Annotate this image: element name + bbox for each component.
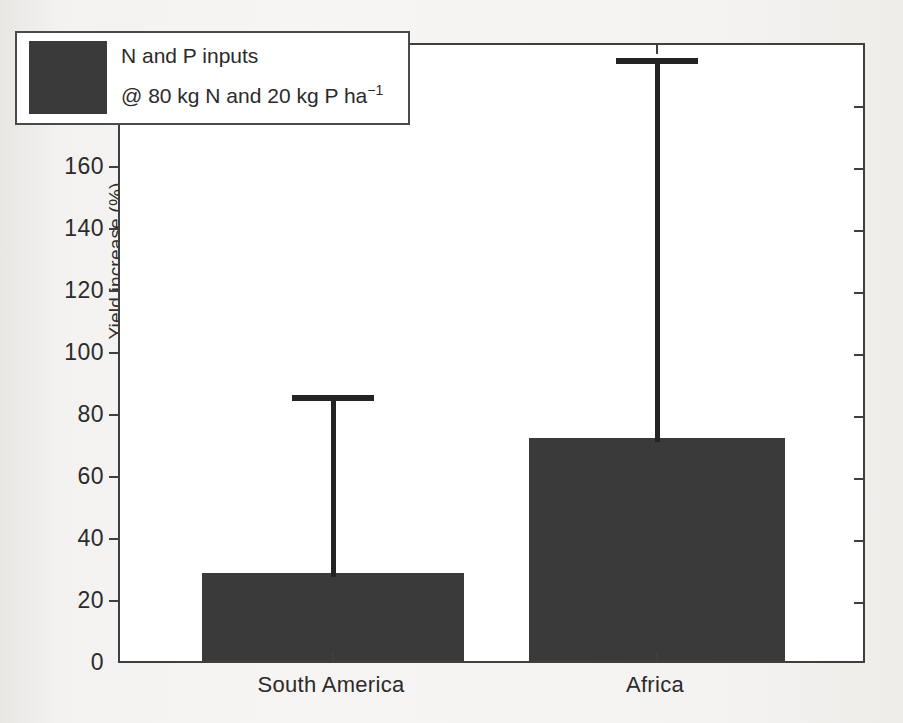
bar [529, 438, 785, 661]
y-axis-tick-label: 100 [64, 339, 104, 366]
plot-area [118, 43, 865, 663]
y-axis-tick-mark-right [854, 602, 863, 604]
bar [202, 573, 464, 661]
y-axis-tick-mark [109, 414, 118, 416]
y-axis-tick-label: 120 [64, 277, 104, 304]
y-axis-tick-mark-right [854, 478, 863, 480]
y-axis-tick-mark-right [854, 168, 863, 170]
y-axis-tick-label: 0 [91, 649, 104, 676]
error-bar-stem [331, 398, 336, 576]
y-axis-tick-label: 60 [77, 463, 104, 490]
x-axis-tick-label: Africa [505, 672, 805, 698]
legend-label-exponent: −1 [367, 82, 383, 98]
y-axis-tick-mark [109, 476, 118, 478]
legend-color-swatch [29, 41, 107, 114]
x-axis-tick-mark-top [656, 45, 658, 54]
y-axis-tick-mark-right [854, 230, 863, 232]
x-axis-tick-label: South America [181, 672, 481, 698]
y-axis-tick-mark [109, 166, 118, 168]
y-axis-tick-mark-right [854, 292, 863, 294]
y-axis-tick-mark [109, 290, 118, 292]
legend-text: N and P inputs @ 80 kg N and 20 kg P ha−… [121, 39, 383, 113]
error-bar-cap [292, 395, 374, 401]
y-axis-tick-mark-right [854, 106, 863, 108]
y-axis-tick-mark [109, 352, 118, 354]
error-bar-stem [655, 61, 660, 442]
y-axis-tick-label: 40 [77, 525, 104, 552]
chart-figure: Yield increase (%) 020406080100120140160… [0, 0, 903, 723]
legend-label-line-1: N and P inputs [121, 39, 383, 73]
y-axis-tick-mark-right [854, 416, 863, 418]
error-bar-cap [616, 58, 698, 64]
y-axis-tick-label: 140 [64, 215, 104, 242]
y-axis-tick-mark-right [854, 540, 863, 542]
y-axis-tick-label: 160 [64, 153, 104, 180]
y-axis-ticks: 020406080100120140160180200 [0, 43, 118, 663]
y-axis-tick-mark [109, 228, 118, 230]
x-axis-tick-mark [656, 652, 658, 661]
legend-label-line-2-text: @ 80 kg N and 20 kg P ha [121, 84, 367, 107]
y-axis-tick-mark-right [854, 354, 863, 356]
y-axis-tick-mark [109, 538, 118, 540]
y-axis-tick-mark [109, 600, 118, 602]
legend-label-line-2: @ 80 kg N and 20 kg P ha−1 [121, 73, 383, 113]
x-axis-tick-mark [332, 652, 334, 661]
y-axis-tick-label: 80 [77, 401, 104, 428]
chart-legend: N and P inputs @ 80 kg N and 20 kg P ha−… [15, 31, 410, 125]
y-axis-tick-label: 20 [77, 587, 104, 614]
